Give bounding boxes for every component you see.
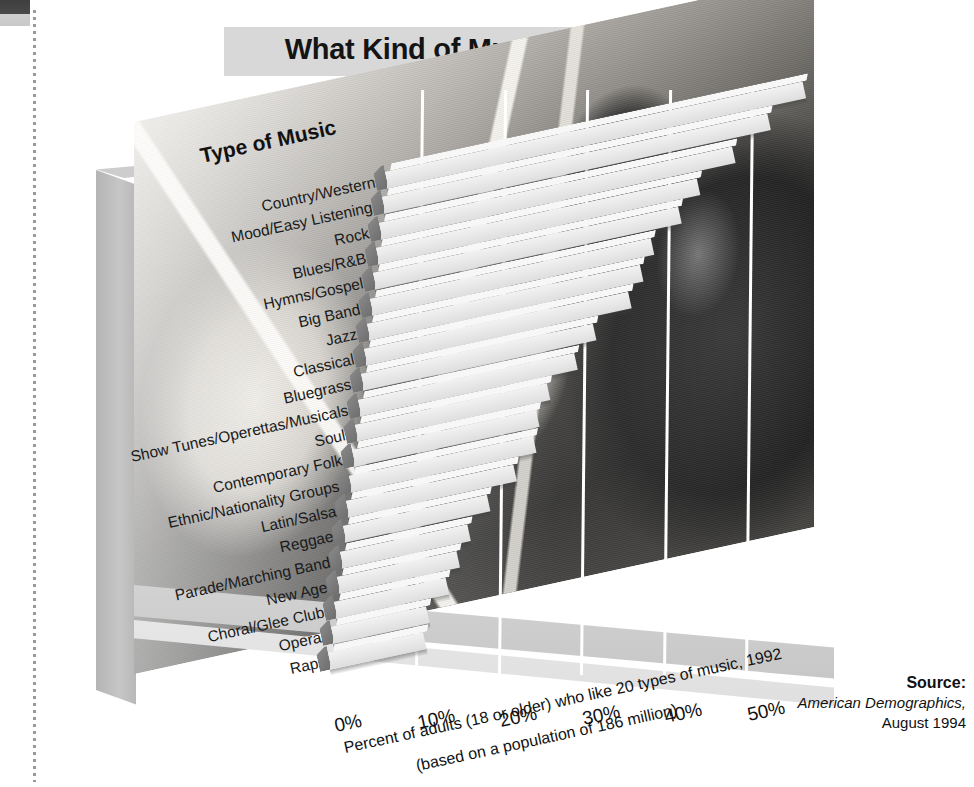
- source-block: Source: American Demographics, August 19…: [726, 672, 966, 733]
- source-label: Source:: [726, 672, 966, 693]
- corner-marker: [0, 0, 30, 26]
- source-publication: American Demographics,: [726, 693, 966, 713]
- source-date: August 1994: [726, 713, 966, 733]
- bar-chart: Country/WesternMood/Easy ListeningRockBl…: [96, 60, 911, 740]
- infographic-page: What Kind of Music Do You Like? Country/…: [0, 0, 974, 787]
